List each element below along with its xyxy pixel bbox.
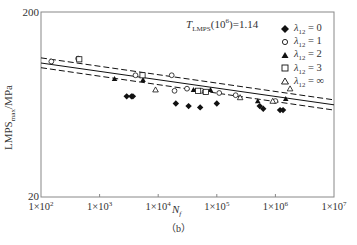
- data-point-open-circle: [172, 88, 177, 93]
- x-tick-label: 1×103: [87, 200, 113, 212]
- legend-item-lambda-3: λ12 = 3: [280, 62, 324, 75]
- x-tick-labels: 1×1021×1031×1041×1051×1061×107: [28, 200, 347, 212]
- legend: λ12 = 0 λ12 = 1 λ12 = 2 λ12 = 3 λ12 = ∞: [280, 22, 324, 88]
- y-axis-label: LMPSmax/MPa: [2, 85, 17, 150]
- y-tick-200: 200: [23, 6, 40, 18]
- data-point-filled-diamond: [197, 104, 203, 110]
- data-point-open-circle: [133, 73, 138, 78]
- data-point-open-circle: [49, 59, 54, 64]
- data-point-open-circle: [185, 86, 190, 91]
- data-point-open-circle: [169, 73, 174, 78]
- open-circle-icon: [280, 37, 294, 47]
- data-point-filled-diamond: [214, 100, 220, 106]
- data-point-filled-diamond: [185, 103, 191, 109]
- figure-caption: （b）: [166, 220, 191, 235]
- data-point-open-triangle: [153, 87, 159, 92]
- data-point-open-square: [77, 57, 82, 62]
- x-tick-label: 1×105: [204, 200, 230, 212]
- x-tick-label: 1×102: [28, 200, 54, 212]
- x-axis-label: Nf: [172, 203, 181, 218]
- x-tick-label: 1×104: [146, 200, 172, 212]
- data-point-open-circle: [217, 91, 222, 96]
- x-tick-label: 1×106: [263, 200, 289, 212]
- legend-item-lambda-inf: λ12 = ∞: [280, 75, 324, 88]
- x-tick-label: 1×107: [321, 200, 347, 212]
- data-point-open-square: [140, 73, 145, 78]
- legend-item-lambda-2: λ12 = 2: [280, 48, 324, 61]
- legend-item-lambda-0: λ12 = 0: [280, 22, 324, 35]
- data-point-open-square: [203, 89, 208, 94]
- legend-item-lambda-1: λ12 = 1: [280, 35, 324, 48]
- open-square-icon: [280, 63, 294, 73]
- data-point-open-square: [196, 88, 201, 93]
- filled-diamond-icon: [280, 24, 294, 34]
- filled-triangle-icon: [280, 50, 294, 60]
- data-point-open-circle: [233, 93, 238, 98]
- open-triangle-icon: [280, 76, 294, 86]
- data-point-filled-diamond: [173, 100, 179, 106]
- annotation-tlmps: TLMPS(106)=1.14: [186, 17, 258, 33]
